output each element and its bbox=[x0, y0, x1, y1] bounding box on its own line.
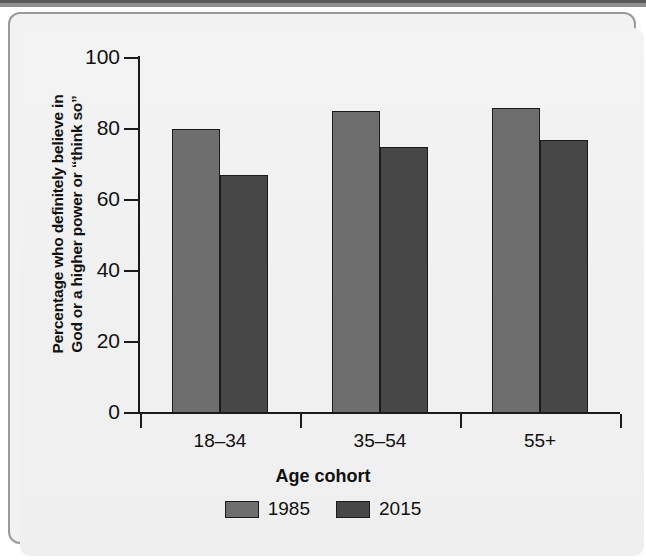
y-tick-100 bbox=[124, 57, 139, 59]
y-tick-label-80: 80 bbox=[60, 116, 120, 140]
y-tick-label-100: 100 bbox=[60, 45, 120, 69]
legend-swatch-2015 bbox=[336, 501, 370, 518]
x-category-label-1: 18–34 bbox=[140, 430, 300, 452]
bar-35–54-1985 bbox=[332, 111, 380, 413]
legend-item-1985: 1985 bbox=[225, 498, 310, 520]
x-tick-end bbox=[620, 414, 622, 428]
x-axis-title: Age cohort bbox=[0, 466, 646, 487]
y-axis-line bbox=[138, 56, 140, 414]
x-tick-2 bbox=[300, 414, 302, 428]
chart-page: Percentage who definitely believe in God… bbox=[0, 0, 646, 560]
chart-legend: 1985 2015 bbox=[0, 498, 646, 520]
bar-55+-1985 bbox=[492, 108, 540, 413]
y-tick-80 bbox=[124, 128, 139, 130]
legend-swatch-1985 bbox=[225, 501, 259, 518]
y-tick-40 bbox=[124, 270, 139, 272]
bar-55+-2015 bbox=[540, 140, 588, 413]
legend-label-1985: 1985 bbox=[268, 498, 310, 520]
bar-18–34-1985 bbox=[172, 129, 220, 413]
bar-chart: Percentage who definitely believe in God… bbox=[0, 0, 646, 560]
x-tick-3 bbox=[460, 414, 462, 428]
y-tick-label-0: 0 bbox=[60, 400, 120, 424]
y-tick-label-20: 20 bbox=[60, 329, 120, 353]
y-tick-label-40: 40 bbox=[60, 258, 120, 282]
y-tick-20 bbox=[124, 341, 139, 343]
legend-item-2015: 2015 bbox=[336, 498, 421, 520]
y-tick-0 bbox=[124, 412, 139, 414]
x-category-label-2: 35–54 bbox=[300, 430, 460, 452]
y-tick-60 bbox=[124, 199, 139, 201]
bar-18–34-2015 bbox=[220, 175, 268, 413]
x-tick-1 bbox=[140, 414, 142, 428]
x-category-label-3: 55+ bbox=[460, 430, 620, 452]
y-tick-label-60: 60 bbox=[60, 187, 120, 211]
legend-label-2015: 2015 bbox=[379, 498, 421, 520]
bar-35–54-2015 bbox=[380, 147, 428, 413]
